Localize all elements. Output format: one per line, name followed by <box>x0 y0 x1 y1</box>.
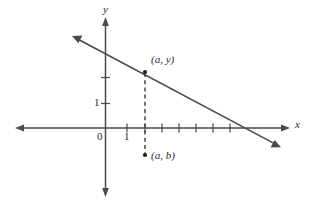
plotted-line-arrow-lower-right <box>271 140 281 148</box>
origin-label: 0 <box>97 131 103 142</box>
point-marker-a-y <box>143 70 147 74</box>
plotted-line <box>72 36 281 148</box>
y-axis-label: y <box>103 4 108 15</box>
point-label-a-y: (a, y) <box>151 54 174 65</box>
coordinate-graph-figure: y x 0 1 1 (a, y) (a, b) <box>0 0 315 207</box>
point-label-a-b: (a, b) <box>151 150 175 161</box>
x-axis-arrow-left <box>15 125 24 132</box>
x-tick-label-1: 1 <box>124 131 130 142</box>
y-tick-label-1: 1 <box>94 97 100 108</box>
plotted-line-arrow-upper-left <box>72 36 82 44</box>
y-axis-arrow-down <box>102 188 109 197</box>
graph-canvas <box>0 0 315 207</box>
x-axis-label: x <box>295 119 300 130</box>
y-axis <box>102 17 109 197</box>
x-axis-arrow-right <box>281 125 290 132</box>
point-marker-a-b <box>143 153 147 157</box>
y-axis-arrow-up <box>102 17 109 26</box>
